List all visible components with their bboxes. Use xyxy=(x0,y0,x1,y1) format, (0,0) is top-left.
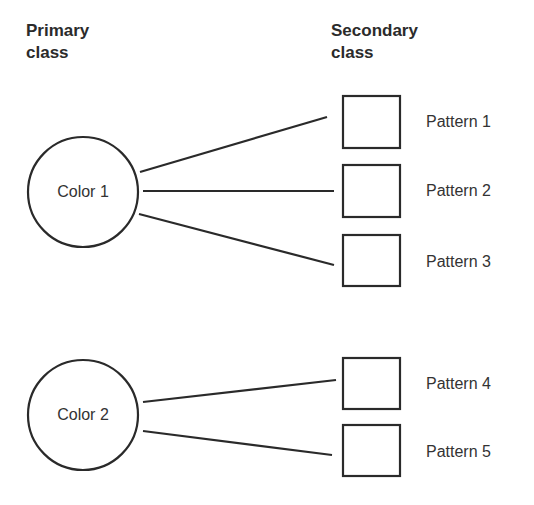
secondary-node-pattern-4 xyxy=(343,358,400,409)
secondary-node-pattern-1 xyxy=(343,96,400,148)
secondary-node-label: Pattern 2 xyxy=(426,181,491,201)
secondary-node-label: Pattern 1 xyxy=(426,112,491,132)
secondary-node-label: Pattern 3 xyxy=(426,252,491,272)
secondary-node-label: Pattern 4 xyxy=(426,374,491,394)
secondary-node-label: Pattern 5 xyxy=(426,442,491,462)
secondary-node-pattern-5 xyxy=(343,425,400,476)
edge-color2-pattern5 xyxy=(143,431,332,455)
secondary-node-pattern-2 xyxy=(343,165,400,217)
edge-color1-pattern3 xyxy=(139,214,334,265)
edge-color1-pattern1 xyxy=(140,117,327,172)
primary-node-label: Color 2 xyxy=(28,405,138,425)
primary-node-label: Color 1 xyxy=(28,182,138,202)
secondary-node-pattern-3 xyxy=(343,235,400,286)
edge-color2-pattern4 xyxy=(143,380,336,402)
